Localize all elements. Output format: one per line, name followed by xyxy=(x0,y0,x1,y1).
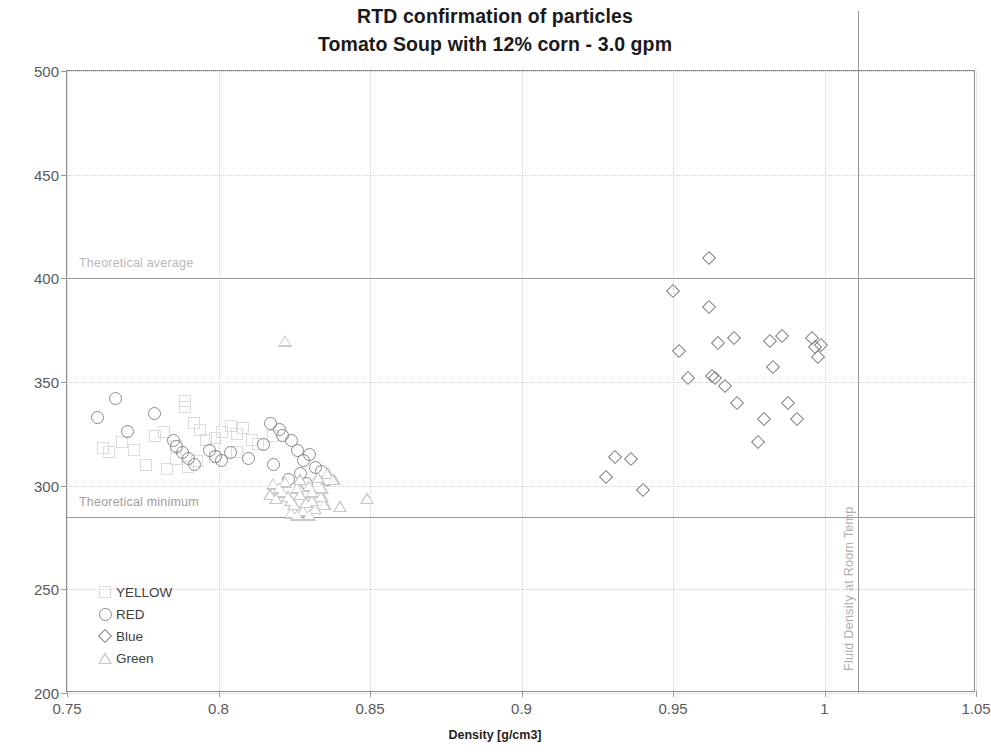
data-point-yellow xyxy=(237,422,249,434)
data-point-blue xyxy=(702,300,716,314)
theoretical-average-label: Theoretical average xyxy=(79,256,193,270)
theoretical-minimum-label: Theoretical minimum xyxy=(79,495,199,509)
data-point-red xyxy=(242,452,255,465)
fluid-density-room-temp-label: Fluid Density at Room Temp xyxy=(842,506,856,671)
data-point-green xyxy=(333,500,347,512)
data-point-red xyxy=(148,407,161,420)
x-axis-tick-label: 0.9 xyxy=(511,700,532,717)
legend-item-red[interactable]: RED xyxy=(97,603,172,625)
x-axis-tick-mark xyxy=(370,691,371,697)
data-point-blue xyxy=(624,452,638,466)
y-axis-tick-mark xyxy=(61,382,67,383)
x-axis-tick-mark xyxy=(67,691,68,697)
diamond-marker xyxy=(98,629,112,643)
data-point-blue xyxy=(766,360,780,374)
data-point-blue xyxy=(757,412,771,426)
gridline-vertical xyxy=(219,71,220,691)
y-axis-tick-label: 200 xyxy=(34,685,59,702)
legend-marker-diamond-icon xyxy=(97,628,113,644)
data-point-blue xyxy=(751,435,765,449)
x-axis-tick-label: 0.8 xyxy=(208,700,229,717)
legend-item-green[interactable]: Green xyxy=(97,647,172,669)
data-point-blue xyxy=(702,251,716,265)
data-point-blue xyxy=(775,329,789,343)
circle-marker xyxy=(99,608,112,621)
y-axis-tick-label: 300 xyxy=(34,477,59,494)
gridline-vertical xyxy=(370,71,371,691)
data-point-yellow xyxy=(140,459,152,471)
theoretical-minimum-line xyxy=(67,517,974,518)
data-point-blue xyxy=(711,336,725,350)
data-point-green xyxy=(318,498,332,510)
data-point-blue xyxy=(730,396,744,410)
data-point-blue xyxy=(781,396,795,410)
data-point-green xyxy=(278,335,292,347)
data-point-red xyxy=(224,446,237,459)
legend-label: Blue xyxy=(116,629,143,644)
legend-label: YELLOW xyxy=(116,585,172,600)
x-axis-tick-label: 0.75 xyxy=(52,700,81,717)
data-point-green xyxy=(315,482,329,494)
data-point-red xyxy=(121,425,134,438)
x-axis-label: Density [g/cm3] xyxy=(0,728,990,742)
y-axis-tick-mark xyxy=(61,486,67,487)
theoretical-average-line xyxy=(67,278,974,279)
y-axis-tick-mark xyxy=(61,175,67,176)
y-axis-tick-label: 400 xyxy=(34,270,59,287)
y-axis-tick-mark xyxy=(61,71,67,72)
x-axis-tick-mark xyxy=(976,691,977,697)
data-point-blue xyxy=(790,412,804,426)
x-axis-tick-label: 0.85 xyxy=(355,700,384,717)
data-point-red xyxy=(109,392,122,405)
legend-marker-circle-icon xyxy=(97,606,113,622)
gridline-horizontal xyxy=(67,589,974,590)
data-point-yellow xyxy=(161,463,173,475)
data-point-red xyxy=(303,448,316,461)
legend-item-yellow[interactable]: YELLOW xyxy=(97,581,172,603)
chart-legend: YELLOWREDBlueGreen xyxy=(97,581,172,669)
chart-subtitle: Tomato Soup with 12% corn - 3.0 gpm xyxy=(0,30,990,58)
y-axis-tick-label: 450 xyxy=(34,166,59,183)
gridline-vertical xyxy=(825,71,826,691)
data-point-yellow xyxy=(179,401,191,413)
gridline-vertical xyxy=(673,71,674,691)
data-point-blue xyxy=(727,331,741,345)
x-axis-tick-mark xyxy=(219,691,220,697)
y-axis-tick-label: 350 xyxy=(34,374,59,391)
chart-title-block: RTD confirmation of particles Tomato Sou… xyxy=(0,2,990,58)
gridline-vertical xyxy=(976,71,977,691)
data-point-red xyxy=(188,458,201,471)
x-axis-tick-mark xyxy=(522,691,523,697)
plot-area: 2002503003504004505000.750.80.850.90.951… xyxy=(66,70,975,692)
square-marker xyxy=(99,586,111,598)
gridline-horizontal xyxy=(67,71,974,72)
data-point-yellow xyxy=(128,444,140,456)
legend-label: RED xyxy=(116,607,145,622)
x-axis-tick-label: 1 xyxy=(820,700,828,717)
gridline-horizontal xyxy=(67,175,974,176)
data-point-blue xyxy=(599,470,613,484)
x-axis-tick-label: 0.95 xyxy=(658,700,687,717)
gridline-vertical xyxy=(522,71,523,691)
y-axis-tick-label: 250 xyxy=(34,581,59,598)
data-point-green xyxy=(360,492,374,504)
gridline-horizontal xyxy=(67,382,974,383)
fluid-density-room-temp-line xyxy=(858,11,859,693)
gridline-horizontal xyxy=(67,693,974,694)
legend-item-blue[interactable]: Blue xyxy=(97,625,172,647)
x-axis-tick-mark xyxy=(825,691,826,697)
data-point-blue xyxy=(666,284,680,298)
y-axis-tick-mark xyxy=(61,589,67,590)
legend-label: Green xyxy=(116,651,154,666)
data-point-red xyxy=(257,438,270,451)
triangle-marker xyxy=(98,652,112,664)
y-axis-tick-label: 500 xyxy=(34,63,59,80)
legend-marker-triangle-icon xyxy=(97,650,113,666)
data-point-red xyxy=(267,458,280,471)
x-axis-tick-mark xyxy=(673,691,674,697)
data-point-yellow xyxy=(103,446,115,458)
x-axis-tick-label: 1.05 xyxy=(961,700,990,717)
gridline-horizontal xyxy=(67,486,974,487)
data-point-blue xyxy=(608,450,622,464)
